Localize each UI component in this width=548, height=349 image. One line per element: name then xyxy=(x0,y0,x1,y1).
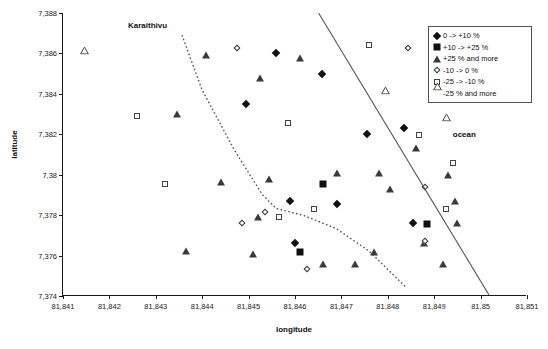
data-point-filled-triangle xyxy=(375,169,383,176)
x-tick-label: 81,848 xyxy=(376,302,399,311)
annotation-karaithivu: Karaithivu xyxy=(128,21,167,30)
y-tick-label: 7,376 xyxy=(38,251,57,260)
y-tick-mark xyxy=(59,175,63,176)
data-point-filled-triangle xyxy=(333,169,341,176)
data-point-filled-triangle xyxy=(444,171,452,178)
y-tick-mark xyxy=(59,13,63,14)
data-point-open-triangle xyxy=(381,93,389,100)
x-tick-label: 81,843 xyxy=(144,302,167,311)
legend-marker-open-diamond xyxy=(432,66,441,75)
data-point-filled-triangle xyxy=(453,220,461,227)
data-point-open-triangle xyxy=(433,90,441,97)
legend-label: -25 % and more xyxy=(443,89,496,98)
data-point-filled-triangle xyxy=(202,52,210,59)
x-tick-label: 81,85 xyxy=(471,302,490,311)
data-point-filled-square xyxy=(424,221,431,228)
y-tick-mark xyxy=(59,134,63,135)
y-tick-label: 7,378 xyxy=(38,211,57,220)
y-tick-mark xyxy=(59,256,63,257)
x-tick-mark xyxy=(434,295,435,299)
data-point-open-diamond xyxy=(421,183,428,190)
y-tick-label: 7,384 xyxy=(38,89,57,98)
x-tick-label: 81,841 xyxy=(52,302,75,311)
y-tick-mark xyxy=(59,94,63,95)
annotation-ocean: ocean xyxy=(453,130,476,139)
data-point-open-diamond xyxy=(261,209,268,216)
legend-marker-filled-diamond xyxy=(432,31,441,40)
data-point-open-square xyxy=(162,181,168,187)
data-point-filled-square xyxy=(319,180,326,187)
data-point-filled-triangle xyxy=(296,55,304,62)
data-point-filled-triangle xyxy=(386,185,394,192)
data-point-open-diamond xyxy=(238,220,245,227)
data-point-open-square xyxy=(366,42,372,48)
legend-label: -10 -> 0 % xyxy=(443,66,478,75)
data-point-filled-triangle xyxy=(412,145,420,152)
x-tick-mark xyxy=(481,295,482,299)
data-point-filled-square xyxy=(296,248,303,255)
data-point-open-square xyxy=(311,206,317,212)
y-axis-label: latitude xyxy=(10,115,19,175)
legend-label: -25 -> -10 % xyxy=(443,77,484,86)
data-point-filled-diamond xyxy=(242,100,250,108)
x-tick-mark xyxy=(156,295,157,299)
data-point-open-diamond xyxy=(303,265,310,272)
data-point-filled-triangle xyxy=(249,250,257,257)
data-point-open-square xyxy=(443,206,449,212)
data-point-open-square xyxy=(416,132,422,138)
x-tick-mark xyxy=(109,295,110,299)
data-point-filled-diamond xyxy=(432,32,440,40)
data-point-filled-diamond xyxy=(291,239,299,247)
legend-label: +10 -> +25 % xyxy=(443,43,488,52)
data-point-open-diamond xyxy=(433,67,440,74)
data-point-filled-triangle xyxy=(370,248,378,255)
legend-row: +10 -> +25 % xyxy=(432,42,527,54)
y-tick-label: 7,38 xyxy=(42,170,57,179)
legend-row: 0 -> +10 % xyxy=(432,30,527,42)
data-point-open-square xyxy=(276,214,282,220)
x-tick-mark xyxy=(295,295,296,299)
data-point-filled-triangle xyxy=(433,55,441,62)
y-tick-label: 7,382 xyxy=(38,130,57,139)
data-point-open-square xyxy=(285,120,291,126)
legend-marker-open-triangle xyxy=(432,89,441,98)
data-point-filled-diamond xyxy=(318,69,326,77)
data-point-filled-diamond xyxy=(333,200,341,208)
x-tick-label: 81,849 xyxy=(423,302,446,311)
x-tick-mark xyxy=(202,295,203,299)
legend-marker-filled-square xyxy=(432,43,441,52)
data-point-open-triangle xyxy=(80,54,88,61)
data-point-filled-diamond xyxy=(286,197,294,205)
legend-row: -25 % and more xyxy=(432,88,527,100)
data-point-open-diamond xyxy=(233,45,240,52)
data-point-filled-triangle xyxy=(182,247,190,254)
data-point-filled-triangle xyxy=(217,178,225,185)
data-point-filled-triangle xyxy=(439,260,447,267)
data-point-open-triangle xyxy=(442,121,450,128)
x-tick-mark xyxy=(249,295,250,299)
x-tick-label: 81,842 xyxy=(98,302,121,311)
legend-marker-filled-triangle xyxy=(432,54,441,63)
data-point-open-square xyxy=(134,113,140,119)
data-point-filled-square xyxy=(433,44,440,51)
y-tick-mark xyxy=(59,53,63,54)
data-point-filled-triangle xyxy=(256,74,264,81)
legend-row: +25 % and more xyxy=(432,53,527,65)
data-point-filled-triangle xyxy=(173,111,181,118)
x-axis-label: longitude xyxy=(62,325,526,334)
data-point-filled-diamond xyxy=(271,49,279,57)
data-point-filled-diamond xyxy=(400,124,408,132)
x-tick-label: 81,851 xyxy=(516,302,539,311)
data-point-filled-diamond xyxy=(409,219,417,227)
x-tick-label: 81,844 xyxy=(191,302,214,311)
chart-page: Karaithivuocean 7,3747,3767,3787,387,382… xyxy=(0,0,548,349)
y-tick-label: 7,374 xyxy=(38,292,57,301)
data-point-open-diamond xyxy=(404,45,411,52)
x-tick-label: 81,847 xyxy=(330,302,353,311)
data-point-filled-diamond xyxy=(363,130,371,138)
data-point-filled-triangle xyxy=(254,214,262,221)
legend-label: +25 % and more xyxy=(443,54,498,63)
legend-row: -10 -> 0 % xyxy=(432,65,527,77)
data-point-filled-triangle xyxy=(319,260,327,267)
y-tick-label: 7,386 xyxy=(38,49,57,58)
